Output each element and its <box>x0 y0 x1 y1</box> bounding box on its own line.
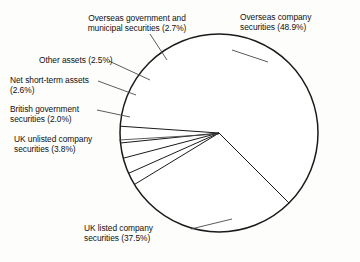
slice-label-uk-unlisted-company: UK unlisted company securities (3.8%) <box>14 134 126 155</box>
slice-label-overseas-government: Overseas government and municipal securi… <box>56 13 218 34</box>
slice-label-british-government: British government securities (2.0%) <box>10 104 120 125</box>
pie-chart-figure: Overseas government and municipal securi… <box>0 0 360 262</box>
slice-label-overseas-company: Overseas company securities (48.9%) <box>240 12 352 33</box>
slice-label-other-assets: Other assets (2.5%) <box>39 55 149 65</box>
slice-label-uk-listed-company: UK listed company securities (37.5%) <box>84 223 199 244</box>
slice-label-net-short-term-assets: Net short-term assets (2.6%) <box>10 75 122 96</box>
